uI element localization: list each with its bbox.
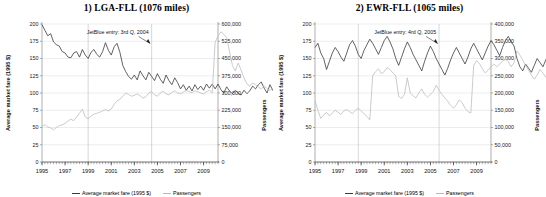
svg-text:1997: 1997: [59, 168, 71, 174]
legend-label-fare: Average market fare (1995 $): [355, 191, 424, 196]
svg-text:200: 200: [303, 21, 312, 27]
plot-area-2: 0255075100125150175200050,000100,000150,…: [273, 0, 546, 197]
svg-text:2005: 2005: [151, 168, 163, 174]
svg-text:2005: 2005: [424, 168, 436, 174]
svg-text:1997: 1997: [332, 168, 344, 174]
svg-text:Average market fare (1995 $): Average market fare (1995 $): [278, 55, 284, 131]
svg-text:250,000: 250,000: [495, 73, 515, 79]
svg-text:150: 150: [30, 55, 39, 61]
svg-text:400,000: 400,000: [495, 21, 515, 27]
svg-text:2009: 2009: [197, 168, 209, 174]
svg-text:100,000: 100,000: [495, 124, 515, 130]
svg-text:1995: 1995: [36, 168, 48, 174]
svg-text:Passengers: Passengers: [261, 99, 267, 130]
svg-text:Passengers: Passengers: [534, 99, 540, 130]
legend-swatch-passengers-icon: [436, 193, 444, 194]
legend-item-fare: Average market fare (1995 $): [72, 191, 151, 196]
legend-item-passengers: Passengers: [436, 191, 474, 196]
legend-swatch-fare-icon: [72, 193, 80, 194]
svg-text:50: 50: [33, 124, 39, 130]
svg-text:2009: 2009: [470, 168, 482, 174]
svg-text:200: 200: [30, 21, 39, 27]
legend-item-fare: Average market fare (1995 $): [345, 191, 424, 196]
svg-text:175: 175: [303, 38, 312, 44]
svg-text:375,000: 375,000: [222, 73, 242, 79]
chart-panel-ewr-fll: 2) EWR-FLL (1065 miles) 0255075100125150…: [273, 0, 546, 197]
legend-label-passengers: Passengers: [446, 191, 474, 196]
svg-text:25: 25: [33, 142, 39, 148]
svg-text:150,000: 150,000: [222, 124, 242, 130]
svg-text:2007: 2007: [174, 168, 186, 174]
svg-text:0: 0: [309, 159, 312, 165]
svg-text:150,000: 150,000: [495, 107, 515, 113]
svg-text:200,000: 200,000: [495, 90, 515, 96]
legend-1: Average market fare (1995 $) Passengers: [0, 191, 273, 196]
svg-text:Average market fare (1995 $): Average market fare (1995 $): [5, 55, 11, 131]
plot-svg-2: 0255075100125150175200050,000100,000150,…: [273, 0, 546, 197]
svg-text:JetBlue entry: 3rd Q, 2004: JetBlue entry: 3rd Q, 2004: [87, 29, 149, 35]
svg-text:525,000: 525,000: [222, 38, 242, 44]
legend-label-passengers: Passengers: [173, 191, 201, 196]
svg-text:50,000: 50,000: [495, 142, 512, 148]
legend-swatch-passengers-icon: [163, 193, 171, 194]
svg-text:100: 100: [303, 90, 312, 96]
svg-text:2001: 2001: [378, 168, 390, 174]
svg-text:100: 100: [30, 90, 39, 96]
plot-svg-1: 0255075100125150175200075,000150,000225,…: [0, 0, 273, 197]
legend-swatch-fare-icon: [345, 193, 353, 194]
svg-text:1995: 1995: [309, 168, 321, 174]
legend-label-fare: Average market fare (1995 $): [82, 191, 151, 196]
legend-item-passengers: Passengers: [163, 191, 201, 196]
svg-text:300,000: 300,000: [495, 55, 515, 61]
svg-text:0: 0: [36, 159, 39, 165]
svg-text:25: 25: [306, 142, 312, 148]
svg-text:600,000: 600,000: [222, 21, 242, 27]
svg-text:150: 150: [303, 55, 312, 61]
svg-text:2001: 2001: [105, 168, 117, 174]
svg-text:50: 50: [306, 124, 312, 130]
svg-text:2003: 2003: [401, 168, 413, 174]
chart-figure: 1) LGA-FLL (1076 miles) 0255075100125150…: [0, 0, 546, 197]
plot-area-1: 0255075100125150175200075,000150,000225,…: [0, 0, 273, 197]
svg-text:75: 75: [33, 107, 39, 113]
svg-text:175: 175: [30, 38, 39, 44]
svg-text:125: 125: [30, 73, 39, 79]
svg-text:1999: 1999: [355, 168, 367, 174]
svg-text:75: 75: [306, 107, 312, 113]
svg-text:75,000: 75,000: [222, 142, 239, 148]
legend-2: Average market fare (1995 $) Passengers: [273, 191, 546, 196]
svg-text:1999: 1999: [82, 168, 94, 174]
svg-text:0: 0: [222, 159, 225, 165]
svg-text:2007: 2007: [447, 168, 459, 174]
chart-panel-lga-fll: 1) LGA-FLL (1076 miles) 0255075100125150…: [0, 0, 273, 197]
svg-text:JetBlue entry: 4rd Q, 2005: JetBlue entry: 4rd Q, 2005: [374, 29, 436, 35]
svg-text:125: 125: [303, 73, 312, 79]
svg-text:0: 0: [495, 159, 498, 165]
svg-text:2003: 2003: [128, 168, 140, 174]
svg-text:225,000: 225,000: [222, 107, 242, 113]
